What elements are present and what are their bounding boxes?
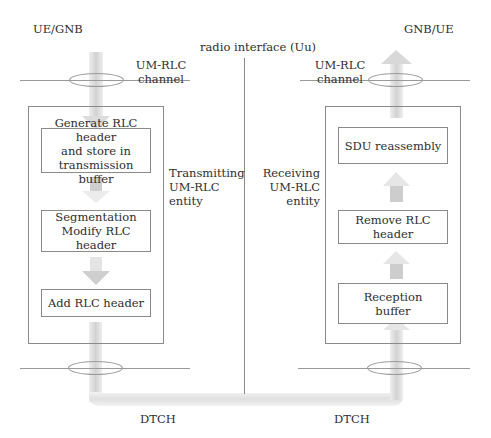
right-top-channel-ellipse [368, 73, 423, 87]
entity-label-line: Transmitting [169, 166, 245, 180]
transmitting-entity-label: Transmitting UM-RLC entity [169, 166, 245, 208]
left-top-channel-ellipse [69, 73, 124, 87]
step-text-line: Add RLC header [48, 296, 144, 310]
step-text-line: transmission buffer [42, 158, 150, 186]
left-node-label: UE/GNB [33, 22, 83, 36]
step-text-line: Modify RLC header [42, 224, 150, 252]
radio-interface-divider [244, 58, 245, 394]
step-sdu-reassembly: SDU reassembly [338, 127, 448, 164]
left-bottom-channel-ellipse [68, 361, 123, 375]
step-text-line: Remove RLC header [339, 213, 447, 241]
radio-interface-label: radio interface (Uu) [200, 40, 316, 54]
left-channel-label-line2: channel [126, 72, 196, 86]
step-reception-buffer: Reception buffer [338, 283, 448, 324]
entity-label-line: UM-RLC [254, 180, 320, 194]
step-text-line: Generate RLC header [42, 116, 150, 144]
step-text-line: Reception [364, 290, 423, 304]
step-generate-rlc-header: Generate RLC header and store in transmi… [41, 128, 151, 173]
right-dtch-label: DTCH [334, 412, 370, 426]
step-text-line: and store in [42, 144, 150, 158]
step-remove-rlc-header: Remove RLC header [338, 210, 448, 244]
entity-label-line: entity [169, 194, 245, 208]
left-channel-label: UM-RLC channel [126, 58, 196, 86]
step-text-line: Segmentation [42, 210, 150, 224]
entity-label-line: UM-RLC [169, 180, 245, 194]
left-dtch-label: DTCH [140, 412, 176, 426]
step-text-line: buffer [364, 304, 423, 318]
right-channel-label-line2: channel [310, 72, 370, 86]
entity-label-line: Receiving [254, 166, 320, 180]
step-text-line: SDU reassembly [345, 139, 442, 153]
right-channel-label-line1: UM-RLC [310, 58, 370, 72]
step-segmentation: Segmentation Modify RLC header [41, 210, 151, 252]
left-channel-label-line1: UM-RLC [126, 58, 196, 72]
entity-label-line: entity [254, 194, 320, 208]
right-channel-label: UM-RLC channel [310, 58, 370, 86]
step-add-rlc-header: Add RLC header [41, 289, 151, 317]
receiving-entity-label: Receiving UM-RLC entity [254, 166, 320, 208]
right-node-label: GNB/UE [404, 22, 454, 36]
right-bottom-channel-ellipse [367, 361, 422, 375]
